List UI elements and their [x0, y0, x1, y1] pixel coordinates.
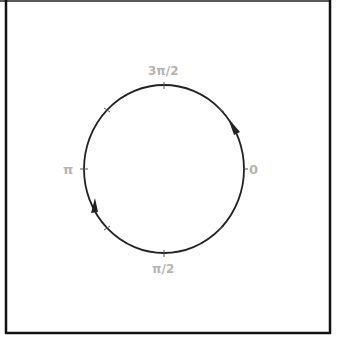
frame-border	[0, 0, 331, 334]
label-pi: π	[63, 162, 73, 177]
diagram-canvas: 0 π 3π/2 π/2	[0, 0, 345, 343]
label-pi-over-two: π/2	[152, 262, 174, 276]
label-zero: 0	[249, 162, 258, 177]
tick-marks	[80, 82, 248, 257]
arrow-icon	[228, 118, 240, 135]
label-three-pi-over-two: 3π/2	[148, 64, 179, 78]
